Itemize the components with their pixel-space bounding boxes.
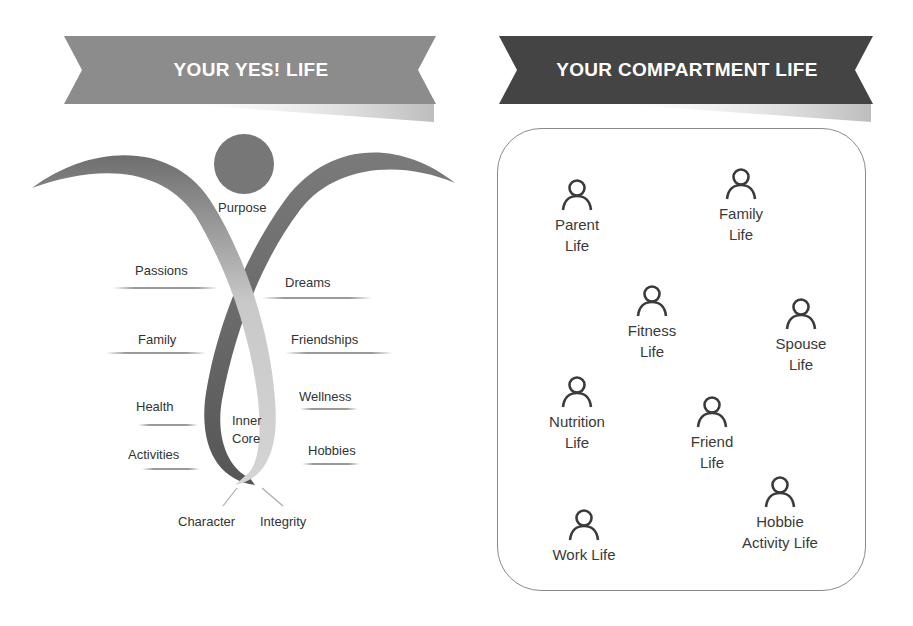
person-icon: [783, 297, 819, 331]
family-label: Family: [138, 332, 176, 347]
wellness-label: Wellness: [299, 389, 352, 404]
yes-figure-diagram: [0, 0, 470, 540]
person-parent-life: Parent Life: [517, 178, 637, 256]
person-fitness-life: Fitness Life: [592, 284, 712, 362]
friendships-label: Friendships: [291, 332, 358, 347]
person-nutrition-life: Nutrition Life: [517, 375, 637, 453]
health-label: Health: [136, 399, 174, 414]
person-family-life: Family Life: [681, 167, 801, 245]
person-icon: [723, 167, 759, 201]
health-line: [138, 424, 198, 426]
person-icon: [634, 284, 670, 318]
passions-label: Passions: [135, 263, 188, 278]
person-icon: [559, 178, 595, 212]
dreams-label: Dreams: [285, 275, 331, 290]
purpose-label: Purpose: [218, 200, 266, 215]
person-icon: [762, 475, 798, 509]
hobbies-label: Hobbies: [308, 443, 356, 458]
person-icon: [566, 508, 602, 542]
inner-core-label-1: Inner: [232, 413, 262, 428]
person-friend-life: Friend Life: [652, 395, 772, 473]
person-icon: [694, 395, 730, 429]
person-work-life: Work Life: [524, 508, 644, 565]
activities-line: [142, 468, 200, 470]
character-label: Character: [178, 514, 235, 529]
passions-line: [113, 287, 218, 289]
family-line: [106, 352, 206, 354]
person-spouse-life: Spouse Life: [741, 297, 861, 375]
wellness-line: [300, 408, 358, 410]
activities-label: Activities: [128, 447, 179, 462]
inner-core-label-2: Core: [232, 431, 260, 446]
purpose-head: [214, 134, 274, 194]
dreams-line: [262, 297, 372, 299]
compartment-life-title: YOUR COMPARTMENT LIFE: [497, 59, 877, 81]
hobbies-line: [302, 463, 360, 465]
friendships-line: [285, 352, 393, 354]
integrity-label: Integrity: [260, 514, 306, 529]
person-icon: [559, 375, 595, 409]
person-hobbie-activity-life: Hobbie Activity Life: [720, 475, 840, 553]
